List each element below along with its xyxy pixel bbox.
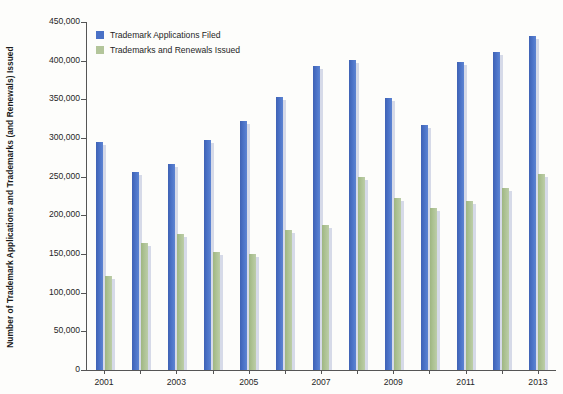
y-axis-title: Number of Trademark Applications and Tra… xyxy=(0,0,20,394)
x-axis-tick-mark xyxy=(502,370,503,374)
bar-2005-series-0 xyxy=(240,121,247,370)
bar-shadow xyxy=(473,204,476,370)
y-axis-tick-label: 250,000 xyxy=(49,171,80,181)
bar-2006-series-0 xyxy=(276,97,283,370)
x-axis-tick-mark xyxy=(429,370,430,374)
bar-2001-series-1 xyxy=(105,276,112,370)
bar-shadow xyxy=(437,211,440,370)
y-axis-tick-label: 350,000 xyxy=(49,93,80,103)
bar-2005-series-1 xyxy=(249,254,256,370)
y-axis-line xyxy=(86,22,87,370)
y-axis-tick-label: 450,000 xyxy=(49,16,80,26)
bar-2007-series-1 xyxy=(322,225,329,370)
x-axis-tick-label: 2003 xyxy=(167,377,186,387)
bar-shadow xyxy=(112,279,115,370)
x-axis-tick-label: 2009 xyxy=(384,377,403,387)
bar-shadow xyxy=(365,180,368,370)
bar-2008-series-1 xyxy=(358,177,365,370)
y-axis-tick-label: 100,000 xyxy=(49,287,80,297)
x-axis-tick-mark xyxy=(104,370,105,374)
x-axis-tick-mark xyxy=(538,370,539,374)
x-axis-tick-mark xyxy=(393,370,394,374)
y-axis-tick-mark xyxy=(81,22,86,23)
bar-shadow xyxy=(148,246,151,370)
y-axis-tick-mark xyxy=(81,177,86,178)
legend-swatch-icon xyxy=(96,31,104,39)
bar-shadow xyxy=(292,233,295,370)
x-axis-tick-label: 2005 xyxy=(239,377,258,387)
x-axis-tick-label: 2013 xyxy=(528,377,547,387)
bar-2004-series-0 xyxy=(204,140,211,370)
y-axis-tick-mark xyxy=(81,254,86,255)
plot-area: 050,000100,000150,000200,000250,000300,0… xyxy=(86,22,556,370)
x-axis-tick-mark xyxy=(285,370,286,374)
y-axis-tick-mark xyxy=(81,61,86,62)
legend-label: Trademarks and Renewals Issued xyxy=(110,45,240,55)
y-axis-tick-label: 150,000 xyxy=(49,248,80,258)
bar-shadow xyxy=(329,228,332,370)
x-axis-tick-mark xyxy=(321,370,322,374)
bar-2003-series-0 xyxy=(168,164,175,370)
bar-2009-series-1 xyxy=(394,198,401,370)
chart-legend: Trademark Applications FiledTrademarks a… xyxy=(96,30,240,60)
x-axis-tick-mark xyxy=(357,370,358,374)
x-axis-tick-mark xyxy=(140,370,141,374)
y-axis-tick-mark xyxy=(81,370,86,371)
bar-2010-series-1 xyxy=(430,208,437,370)
x-axis-tick-label: 2007 xyxy=(311,377,330,387)
y-axis-tick-label: 300,000 xyxy=(49,132,80,142)
legend-item: Trademark Applications Filed xyxy=(96,30,240,40)
x-axis-tick-label: 2011 xyxy=(456,377,474,387)
x-axis-tick-mark xyxy=(213,370,214,374)
bar-shadow xyxy=(184,237,187,370)
bar-2013-series-1 xyxy=(538,174,545,370)
bar-2011-series-0 xyxy=(457,62,464,370)
bar-2001-series-0 xyxy=(96,142,103,370)
bar-shadow xyxy=(401,201,404,370)
bar-2011-series-1 xyxy=(466,201,473,370)
bar-2006-series-1 xyxy=(285,230,292,370)
x-axis-tick-mark xyxy=(176,370,177,374)
x-axis-tick-mark xyxy=(249,370,250,374)
bar-2007-series-0 xyxy=(313,66,320,370)
legend-label: Trademark Applications Filed xyxy=(110,30,221,40)
bar-2010-series-0 xyxy=(421,125,428,370)
y-axis-tick-label: 0 xyxy=(75,364,80,374)
bar-shadow xyxy=(509,191,512,370)
bar-2009-series-0 xyxy=(385,98,392,370)
y-axis-tick-mark xyxy=(81,215,86,216)
y-axis-tick-mark xyxy=(81,99,86,100)
legend-item: Trademarks and Renewals Issued xyxy=(96,45,240,55)
bar-2008-series-0 xyxy=(349,60,356,370)
bar-shadow xyxy=(220,255,223,370)
y-axis-tick-mark xyxy=(81,293,86,294)
y-axis-tick-label: 400,000 xyxy=(49,55,80,65)
bar-2012-series-1 xyxy=(502,188,509,370)
y-axis-tick-mark xyxy=(81,331,86,332)
x-axis-tick-mark xyxy=(466,370,467,374)
chart-page: Number of Trademark Applications and Tra… xyxy=(0,0,563,394)
bar-shadow xyxy=(545,177,548,370)
y-axis-tick-label: 50,000 xyxy=(54,325,80,335)
x-axis-tick-label: 2001 xyxy=(95,377,114,387)
y-axis-tick-label: 200,000 xyxy=(49,209,80,219)
y-axis-tick-mark xyxy=(81,138,86,139)
bar-2012-series-0 xyxy=(493,52,500,370)
bar-shadow xyxy=(256,257,259,370)
legend-swatch-icon xyxy=(96,46,104,54)
bar-2013-series-0 xyxy=(529,36,536,370)
bar-2002-series-0 xyxy=(132,172,139,370)
bar-2002-series-1 xyxy=(141,243,148,370)
bar-2004-series-1 xyxy=(213,252,220,370)
bar-2003-series-1 xyxy=(177,234,184,370)
